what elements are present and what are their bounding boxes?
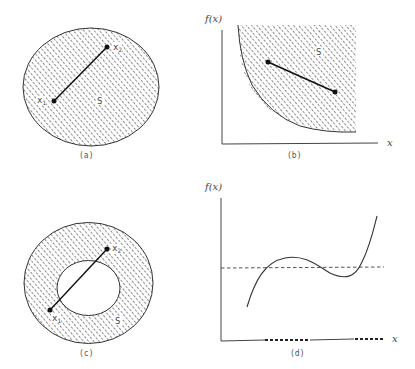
caption-a: (a)	[79, 151, 93, 160]
convex-set-ellipse	[23, 28, 159, 146]
point-b-2	[333, 90, 338, 95]
panel-c: x1 x2 S (c)	[24, 222, 153, 358]
point-x1	[52, 99, 57, 104]
caption-b: (b)	[287, 151, 301, 160]
caption-c: (c)	[79, 349, 93, 358]
panel-d: f(x) x (d)	[204, 181, 398, 358]
x-axis-b	[222, 143, 378, 144]
label-set-s-b: S	[316, 47, 321, 57]
label-set-s-c: S	[115, 316, 120, 326]
x-axis-label-b: x	[387, 137, 393, 148]
annulus-set	[24, 222, 153, 343]
point-c-x2	[105, 247, 110, 252]
epigraph-region	[238, 25, 356, 132]
y-axis-label-b: f(x)	[204, 13, 222, 24]
point-x2	[105, 45, 110, 50]
x-axis-d-solid-2	[310, 339, 354, 340]
nonconvex-function-curve	[247, 216, 377, 307]
convexity-figure: x1 x2 S (a) S f(x) x (b) x1 x2 S (c)	[0, 0, 415, 369]
point-c-x1	[48, 308, 53, 313]
panel-a: x1 x2 S (a)	[23, 28, 159, 160]
y-axis-label-d: f(x)	[204, 181, 222, 192]
point-b-1	[266, 60, 271, 65]
x-axis-label-d: x	[392, 333, 398, 344]
x-axis-d-solid-1	[221, 340, 265, 341]
panel-b: S f(x) x (b)	[204, 13, 393, 160]
label-set-s: S	[97, 96, 102, 106]
caption-d: (d)	[290, 349, 304, 358]
